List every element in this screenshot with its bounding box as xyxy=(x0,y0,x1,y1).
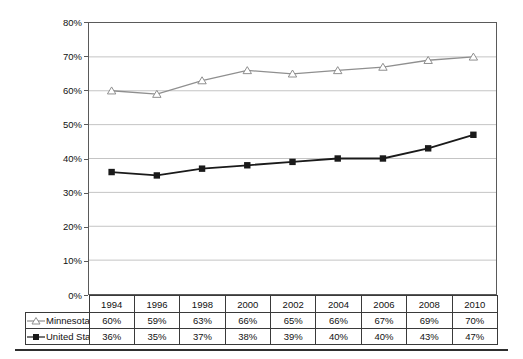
y-axis-tick xyxy=(84,227,88,228)
line-chart xyxy=(89,23,496,294)
y-axis-label: 20% xyxy=(42,221,82,232)
y-axis-tick xyxy=(84,124,88,125)
table-value-cell: 40% xyxy=(361,329,406,345)
y-axis-tick xyxy=(84,90,88,91)
table-header-cell: 2006 xyxy=(361,296,406,313)
y-axis-label: 10% xyxy=(42,255,82,266)
united-states-marker-2006 xyxy=(380,155,386,161)
table-value-cell: 40% xyxy=(316,329,361,345)
plot-area xyxy=(88,22,497,295)
table-value-cell: 60% xyxy=(89,313,134,329)
y-axis-label: 40% xyxy=(42,153,82,164)
data-table: 199419961998200020022004200620082010Minn… xyxy=(25,295,498,345)
table-value-cell: 43% xyxy=(407,329,452,345)
y-axis-label: 70% xyxy=(42,51,82,62)
table-value-cell: 70% xyxy=(452,313,498,329)
table-header-cell: 2004 xyxy=(316,296,361,313)
y-axis-label: 30% xyxy=(42,187,82,198)
y-axis-tick xyxy=(84,261,88,262)
table-value-cell: 66% xyxy=(316,313,361,329)
y-axis-tick xyxy=(84,22,88,23)
table-header-cell: 2008 xyxy=(407,296,452,313)
table-value-cell: 35% xyxy=(134,329,179,345)
table-row: Minnesota60%59%63%66%65%66%67%69%70% xyxy=(26,313,498,329)
legend-label: Minnesota xyxy=(46,315,89,326)
legend-label: United States xyxy=(46,331,89,342)
legend-cell-united-states: United States xyxy=(26,329,90,345)
table-value-cell: 69% xyxy=(407,313,452,329)
table-header-cell: 2002 xyxy=(271,296,316,313)
chart-page: 0%10%20%30%40%50%60%70%80% 1994199619982… xyxy=(0,0,523,359)
table-header-cell: 2000 xyxy=(225,296,270,313)
table-value-cell: 65% xyxy=(271,313,316,329)
united-states-marker-1996 xyxy=(154,172,160,178)
united-states-marker-2004 xyxy=(335,155,341,161)
table-header-cell: 1994 xyxy=(89,296,134,313)
table-header-row: 199419961998200020022004200620082010 xyxy=(26,296,498,313)
united-states-marker-2002 xyxy=(289,159,295,165)
table-value-cell: 36% xyxy=(89,329,134,345)
united-states-marker-1998 xyxy=(199,165,205,171)
legend-cell-minnesota: Minnesota xyxy=(26,313,90,329)
y-axis-label: 60% xyxy=(42,85,82,96)
bottom-rule xyxy=(15,349,508,351)
united-states-marker-2000 xyxy=(244,162,250,168)
table-value-cell: 67% xyxy=(361,313,406,329)
y-axis-label: 80% xyxy=(42,17,82,28)
legend-entry: United States xyxy=(27,331,89,342)
y-axis-tick xyxy=(84,159,88,160)
table-value-cell: 63% xyxy=(180,313,225,329)
table-value-cell: 37% xyxy=(180,329,225,345)
y-axis-tick xyxy=(84,193,88,194)
table-value-cell: 66% xyxy=(225,313,270,329)
y-axis-tick xyxy=(84,56,88,57)
square-marker-icon xyxy=(27,332,45,342)
table-corner-cell xyxy=(26,296,90,313)
united-states-line xyxy=(112,135,474,176)
table-value-cell: 39% xyxy=(271,329,316,345)
table-value-cell: 59% xyxy=(134,313,179,329)
table-header-cell: 2010 xyxy=(452,296,498,313)
united-states-marker-2010 xyxy=(470,132,476,138)
table-row: United States36%35%37%38%39%40%40%43%47% xyxy=(26,329,498,345)
legend-square xyxy=(33,334,39,340)
triangle-marker-icon xyxy=(27,316,45,326)
legend-entry: Minnesota xyxy=(27,315,89,326)
table-header-cell: 1996 xyxy=(134,296,179,313)
united-states-marker-2008 xyxy=(425,145,431,151)
table-header-cell: 1998 xyxy=(180,296,225,313)
united-states-marker-1994 xyxy=(108,169,114,175)
y-axis-label: 50% xyxy=(42,119,82,130)
table-value-cell: 47% xyxy=(452,329,498,345)
table-value-cell: 38% xyxy=(225,329,270,345)
